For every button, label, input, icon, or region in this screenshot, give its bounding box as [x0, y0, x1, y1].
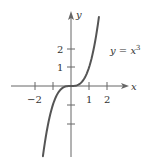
y-tick-label-2: 2: [57, 44, 63, 55]
x-tick-label-1: 1: [86, 94, 92, 105]
y-tick-label-1: 1: [57, 62, 63, 73]
curve-equation-label: y = x3: [109, 44, 141, 56]
cubic-function-graph: x y −2 1 2 2 1 y = x3: [0, 0, 150, 162]
x-tick-label-neg2: −2: [27, 94, 42, 105]
y-axis-label: y: [75, 9, 82, 20]
x-axis-label: x: [131, 81, 137, 92]
x-tick-label-2: 2: [104, 94, 110, 105]
